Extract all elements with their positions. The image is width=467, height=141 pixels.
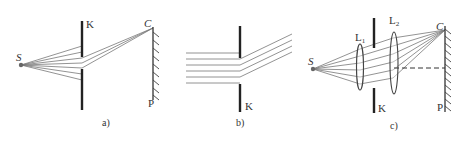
panel-c-screen-p-hatching [445, 29, 451, 111]
panel-a-incident-rays [21, 46, 82, 80]
panel-a-screen-p-hatching [153, 32, 159, 100]
panel-a-source-point [19, 63, 23, 67]
panel-a-label-c: C [144, 17, 152, 29]
panel-a-diffracted-rays [82, 28, 153, 68]
panel-b-incident-rays [186, 53, 240, 83]
panel-c-lens-l2 [390, 32, 398, 94]
panel-c-caption: c) [390, 120, 398, 132]
panel-c-label-c: C [436, 20, 444, 32]
panel-c-rays-to-l1 [313, 49, 360, 84]
panel-c-rays-to-c [393, 30, 445, 78]
panel-a: S K C P a) [16, 17, 159, 129]
panel-a-caption: a) [102, 117, 110, 129]
panel-b: K b) [186, 26, 292, 129]
panel-c-label-l2: L2 [389, 14, 400, 28]
panel-c-label-k: K [378, 102, 386, 114]
panel-a-label-k: K [86, 18, 94, 30]
panel-c-label-p: P [437, 101, 443, 113]
panel-c: S L1 L2 K C P c) [308, 14, 451, 132]
panel-b-label-k: K [245, 100, 253, 112]
panel-b-caption: b) [236, 117, 244, 129]
panel-a-label-s: S [16, 51, 22, 63]
panel-b-diffracted-rays [240, 34, 292, 77]
panel-a-label-p: P [148, 97, 154, 109]
diffraction-figure: S K C P a) K b) [0, 0, 467, 141]
panel-c-lens-l1 [357, 44, 364, 90]
panel-c-source-point [311, 67, 315, 71]
panel-c-label-s: S [308, 55, 314, 67]
panel-c-label-l1: L1 [355, 31, 366, 45]
